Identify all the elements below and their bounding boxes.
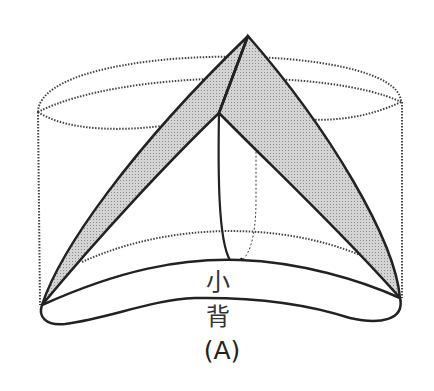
- diagram-canvas: [0, 0, 434, 391]
- cylinder-lower-arc: [82, 231, 360, 262]
- figure-caption: (A): [190, 336, 254, 365]
- vertical-curve: [219, 113, 242, 262]
- region-label-small-back: 小 背: [180, 262, 270, 332]
- cylinder-left-edge: [38, 112, 40, 305]
